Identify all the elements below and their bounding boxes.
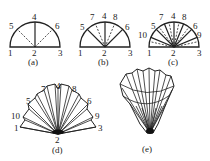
label-c-1: 1 [147, 48, 152, 58]
label-b-7: 7 [90, 12, 95, 22]
label-d-3: 3 [98, 123, 103, 133]
label-d-8: 8 [72, 84, 77, 94]
label-d-2: 2 [55, 135, 60, 145]
caption-a: (a) [28, 57, 38, 67]
panel-d [20, 84, 96, 135]
caption-d: (d) [52, 145, 63, 155]
label-d-5: 5 [26, 96, 31, 106]
label-b-8: 8 [113, 12, 118, 22]
label-c-5: 5 [151, 21, 156, 31]
label-d-10: 10 [11, 111, 21, 121]
label-c-8: 8 [182, 12, 187, 22]
label-b-3: 3 [128, 48, 133, 58]
panel-c [149, 22, 199, 47]
caption-b: (b) [98, 57, 109, 67]
label-a-6: 6 [55, 21, 60, 31]
label-d-7: 7 [41, 84, 46, 94]
label-b-1: 1 [78, 48, 83, 58]
label-d-4: 4 [56, 81, 61, 91]
label-c-4: 4 [171, 11, 176, 21]
label-a-3: 3 [58, 48, 63, 58]
label-c-7: 7 [159, 12, 164, 22]
panel-b [80, 22, 130, 47]
label-b-5: 5 [80, 22, 85, 32]
caption-e: (e) [142, 144, 152, 154]
folding-diagram: 1 2 3 4 5 6 (a) 1 2 3 4 5 6 7 8 (b) 1 2 … [0, 0, 210, 161]
label-d-1: 1 [14, 123, 19, 133]
label-d-6: 6 [87, 96, 92, 106]
panel-a [10, 22, 60, 47]
label-c-9: 9 [197, 30, 202, 40]
label-a-5: 5 [9, 21, 14, 31]
label-a-1: 1 [8, 48, 13, 58]
label-c-3: 3 [197, 48, 202, 58]
label-c-10: 10 [138, 30, 148, 40]
label-b-4: 4 [102, 11, 107, 21]
label-b-6: 6 [125, 22, 130, 32]
label-a-4: 4 [32, 12, 37, 22]
label-d-9: 9 [95, 111, 100, 121]
panel-e [120, 68, 174, 134]
caption-c: (c) [168, 57, 178, 67]
